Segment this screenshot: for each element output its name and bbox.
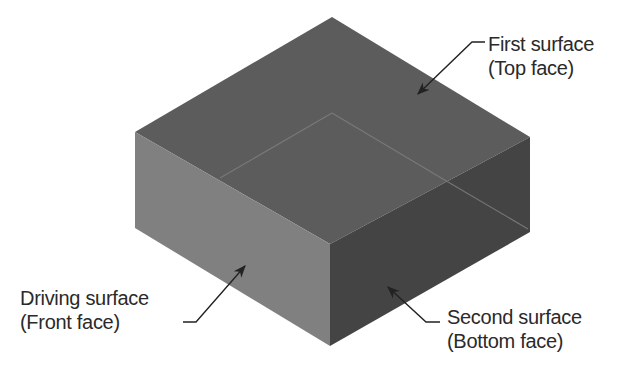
second-surface-title: Second surface — [447, 305, 582, 329]
label-second-surface: Second surface (Bottom face) — [447, 305, 582, 353]
second-surface-subtitle: (Bottom face) — [447, 329, 582, 353]
driving-surface-subtitle: (Front face) — [20, 310, 149, 334]
first-surface-title: First surface — [488, 32, 594, 56]
driving-surface-title: Driving surface — [20, 286, 149, 310]
first-surface-subtitle: (Top face) — [488, 56, 594, 80]
label-driving-surface: Driving surface (Front face) — [20, 286, 149, 334]
label-first-surface: First surface (Top face) — [488, 32, 594, 80]
